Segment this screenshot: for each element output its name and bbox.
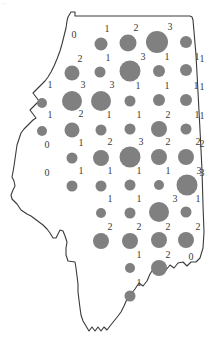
bubble-symbol <box>95 38 108 51</box>
bubble-symbol <box>67 153 78 164</box>
bubble-value-label: 1 <box>137 193 142 204</box>
bubble-symbol <box>151 121 167 137</box>
bubble-symbol <box>178 232 194 248</box>
bubble-value-label: 1 <box>136 80 141 91</box>
bubble-symbol <box>151 232 167 248</box>
bubble-map-svg: 0123213111331111211210123220111131131222… <box>0 0 214 356</box>
bubble-value-label: 1 <box>165 80 170 91</box>
bubble-symbol <box>120 35 137 52</box>
edge-value-label: 1 <box>200 81 205 92</box>
bubble-symbol <box>96 181 107 192</box>
bubble-value-label: 2 <box>134 22 139 33</box>
bubble-symbol <box>125 263 135 273</box>
bubble-symbol <box>95 67 106 78</box>
bubble-symbol <box>37 126 47 136</box>
bubble-value-label: 3 <box>168 21 173 32</box>
bubble-value-label: 2 <box>79 108 84 119</box>
bubble-symbol <box>180 64 192 76</box>
bubble-value-label: 2 <box>108 221 113 232</box>
bubble-value-label: 1 <box>107 109 112 120</box>
edge-value-label: 1 <box>200 110 205 121</box>
bubble-value-label: 0 <box>72 29 77 40</box>
bubble-symbol <box>93 233 109 249</box>
bubble-value-label: 1 <box>108 165 113 176</box>
bubble-value-label: 1 <box>137 277 142 288</box>
bubble-value-label: 2 <box>166 109 171 120</box>
bubble-value-label: 1 <box>137 165 142 176</box>
bubble-value-label: 1 <box>165 51 170 62</box>
bubble-symbol <box>146 31 168 53</box>
bubble-symbol <box>153 65 165 77</box>
bubble-value-label: 1 <box>106 52 111 63</box>
bubble-symbol <box>91 91 111 111</box>
edge-value-label: 1 <box>200 53 205 64</box>
bubble-symbol <box>181 124 192 135</box>
bubble-symbol <box>67 181 78 192</box>
bubble-symbol <box>122 233 138 249</box>
bubble-symbol <box>37 98 47 108</box>
bubble-symbol <box>153 94 165 106</box>
bubble-value-label: 1 <box>166 165 171 176</box>
bubble-value-label: 0 <box>45 139 50 150</box>
bubble-value-label: 1 <box>196 193 201 204</box>
bubble-value-label: 2 <box>108 136 113 147</box>
edge-value-label: 2 <box>200 138 205 149</box>
bubble-symbol <box>125 180 136 191</box>
bubble-value-label: 1 <box>105 23 110 34</box>
bubble-symbol <box>120 61 141 82</box>
bubble-symbol <box>180 36 192 48</box>
bubble-value-label: 0 <box>189 251 194 262</box>
bubble-symbol <box>151 149 167 165</box>
bubble-value-label: 0 <box>45 167 50 178</box>
corner-artifact-mark: '' <box>2 1 7 9</box>
bubble-value-label: 3 <box>81 79 86 90</box>
bubble-symbol <box>65 123 80 138</box>
bubble-symbol <box>125 291 136 302</box>
bubble-symbol <box>96 125 107 136</box>
bubble-symbol <box>154 180 164 190</box>
bubble-symbol <box>125 124 136 135</box>
bubble-map-figure: '' 0123213111331111211210123220111131131… <box>0 0 214 356</box>
bubble-symbol <box>125 208 136 219</box>
bubble-value-label: 1 <box>137 249 142 260</box>
bubble-symbol <box>180 94 192 106</box>
bubble-symbol <box>125 96 136 107</box>
bubble-value-label: 1 <box>48 79 53 90</box>
bubble-value-label: 3 <box>173 193 178 204</box>
bubble-value-label: 1 <box>137 109 142 120</box>
bubble-value-label: 3 <box>110 79 115 90</box>
bubble-symbol <box>178 149 194 165</box>
bubble-value-label: 2 <box>137 221 142 232</box>
edge-value-label: 3 <box>200 167 205 178</box>
bubble-value-label: 1 <box>79 165 84 176</box>
bubble-value-label: 1 <box>194 80 199 91</box>
bubble-value-label: 2 <box>166 249 171 260</box>
bubble-value-label: 2 <box>166 221 171 232</box>
bubble-value-label: 2 <box>78 53 83 64</box>
bubble-value-label: 3 <box>139 136 144 147</box>
bubble-symbol <box>177 175 198 196</box>
bubble-value-label: 1 <box>79 137 84 148</box>
bubble-symbol <box>151 260 167 276</box>
bubble-value-label: 2 <box>196 221 201 232</box>
bubble-symbol <box>96 208 106 218</box>
bubble-symbol <box>93 150 109 166</box>
bubble-value-label: 3 <box>141 51 146 62</box>
bubble-value-label: 2 <box>166 136 171 147</box>
bubble-symbol <box>181 207 192 218</box>
bubble-symbol <box>65 66 80 81</box>
bubble-value-label: 1 <box>108 193 113 204</box>
bubble-symbol <box>149 202 169 222</box>
bubble-value-label: 1 <box>48 109 53 120</box>
